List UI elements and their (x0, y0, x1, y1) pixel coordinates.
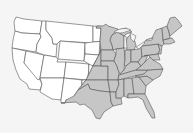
state-wy (58, 41, 85, 61)
state-mt (46, 21, 93, 44)
state-wa (14, 17, 42, 34)
state-az (40, 78, 64, 100)
state-co (64, 62, 89, 80)
state-me (167, 17, 182, 36)
state-ia (101, 50, 116, 61)
us-map (0, 0, 193, 133)
lake-michigan (124, 36, 127, 48)
state-fl (128, 94, 155, 118)
